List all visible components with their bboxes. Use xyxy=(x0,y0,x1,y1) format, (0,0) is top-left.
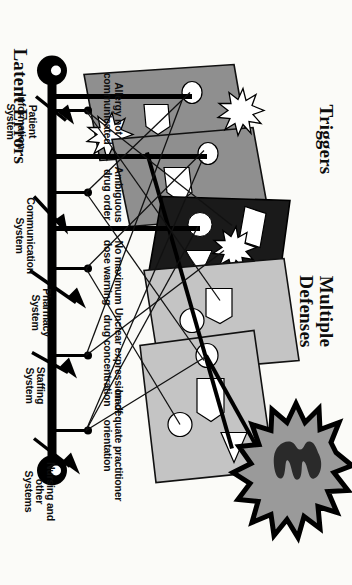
defense-label-pharmacy: Pharmacy System xyxy=(30,272,52,352)
title-multiple-defenses: Multiple Defenses xyxy=(296,246,336,376)
defense-label-patient-information: Patient Information System xyxy=(5,76,38,166)
title-triggers: Triggers xyxy=(316,74,336,204)
defense-label-communication: Communication System xyxy=(14,186,36,284)
defense-label-staffing: Staffing System xyxy=(24,348,46,422)
diagram-canvas: Latent Errors Allergy not communicated A… xyxy=(0,0,352,585)
figure-page: Latent Errors Allergy not communicated A… xyxy=(0,0,352,585)
adverse-event-burst xyxy=(233,403,352,537)
latent-error-label-orientation: Inadequate practitioner orientation xyxy=(102,368,124,522)
defense-label-nursing-other: Nursing and other Systems xyxy=(23,448,56,534)
